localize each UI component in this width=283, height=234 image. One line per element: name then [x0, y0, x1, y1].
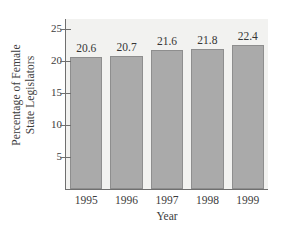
- bar[interactable]: [151, 50, 183, 189]
- bar-slot: 21.8: [191, 19, 223, 189]
- y-tick-mark: [60, 157, 71, 158]
- y-axis-title-line-2: State Legislators: [23, 44, 37, 146]
- bar-value-label: 22.4: [220, 30, 276, 42]
- y-tick-mark: [60, 29, 71, 30]
- y-tick-mark: [60, 61, 71, 62]
- bar[interactable]: [70, 57, 102, 189]
- bar-chart-figure: Percentage of Female State Legislators 5…: [0, 0, 283, 234]
- bar[interactable]: [232, 45, 264, 189]
- bar[interactable]: [191, 49, 223, 189]
- x-tick-label: 1995: [66, 193, 106, 207]
- y-tick-label: 25: [40, 23, 62, 34]
- y-tick-mark: [60, 125, 71, 126]
- y-tick-label: 10: [40, 119, 62, 130]
- y-axis-title-line-1: Percentage of Female: [9, 44, 23, 146]
- y-tick-mark: [60, 93, 71, 94]
- y-axis-title: Percentage of Female State Legislators: [6, 0, 40, 190]
- y-tick-label: 15: [40, 87, 62, 98]
- plot-area: 20.620.721.621.822.4: [66, 19, 268, 189]
- x-tick-label: 1997: [147, 193, 187, 207]
- x-tick-label: 1996: [106, 193, 146, 207]
- x-tick-label: 1998: [187, 193, 227, 207]
- y-tick-label: 5: [40, 151, 62, 162]
- x-axis-title: Year: [66, 209, 268, 223]
- bar[interactable]: [110, 56, 142, 189]
- x-axis-line: [65, 189, 268, 190]
- x-axis-tick-labels: 19951996199719981999: [66, 193, 268, 209]
- x-tick-label: 1999: [228, 193, 268, 207]
- y-axis-tick-labels: 510152025: [40, 0, 62, 234]
- bar-slot: 22.4: [232, 19, 264, 189]
- y-tick-label: 20: [40, 55, 62, 66]
